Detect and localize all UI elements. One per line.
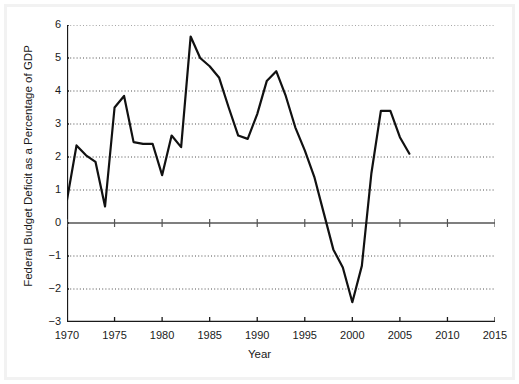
chart-figure: 6543210−1−2−3 19701975198019851990199520… [0, 0, 519, 384]
y-tick-label: 5 [33, 51, 61, 63]
line-chart-svg [67, 25, 495, 322]
y-tick-label: 3 [33, 117, 61, 129]
axes-group [67, 25, 495, 322]
y-tick-label: 0 [33, 216, 61, 228]
x-tick-label: 2005 [378, 329, 422, 341]
y-tick-label: 6 [33, 18, 61, 30]
x-tick-label: 1980 [140, 329, 184, 341]
gridlines-group [67, 25, 495, 322]
x-tick-label: 1990 [235, 329, 279, 341]
x-axis-ticks [67, 219, 495, 322]
x-tick-label: 1975 [93, 329, 137, 341]
x-tick-label: 1985 [188, 329, 232, 341]
data-line [67, 37, 409, 303]
x-axis-title: Year [0, 348, 519, 360]
x-tick-label: 2000 [330, 329, 374, 341]
y-axis-title: Federal Budget Deficit as a Percentage o… [22, 26, 34, 306]
plot-area [67, 25, 495, 322]
y-tick-label: −2 [33, 282, 61, 294]
x-tick-label: 2015 [473, 329, 517, 341]
data-series-group [67, 37, 409, 303]
y-tick-label: −1 [33, 249, 61, 261]
x-tick-label: 2010 [425, 329, 469, 341]
y-tick-label: 1 [33, 183, 61, 195]
x-tick-label: 1970 [45, 329, 89, 341]
y-tick-label: 4 [33, 84, 61, 96]
y-tick-label: 2 [33, 150, 61, 162]
x-tick-label: 1995 [283, 329, 327, 341]
y-tick-label: −3 [33, 315, 61, 327]
